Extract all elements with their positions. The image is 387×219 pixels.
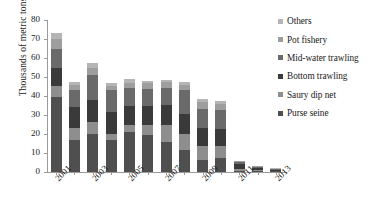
legend-item[interactable]: Bottom trawling (278, 67, 386, 85)
bar-segment (161, 105, 172, 126)
bar-segment (69, 107, 80, 128)
legend-item[interactable]: Mid-water trawling (278, 49, 386, 67)
bar-segment (197, 109, 208, 128)
bar-stack[interactable] (124, 79, 135, 172)
y-axis-tick-label: 0 (36, 166, 41, 176)
legend-item-label: Purse seine (287, 108, 329, 118)
y-axis-tick-label: 30 (31, 109, 40, 119)
bar-segment (179, 134, 190, 150)
bar-group (161, 20, 172, 172)
bar-segment (106, 134, 117, 141)
bar-segment (142, 106, 153, 125)
x-axis-tick-mark (221, 172, 222, 175)
bar-segment (197, 128, 208, 145)
y-axis-tick-label: 40 (31, 90, 40, 100)
y-axis-tick-label: 70 (31, 33, 40, 43)
bar-segment (51, 97, 62, 172)
bar-stack[interactable] (142, 81, 153, 172)
legend-swatch-icon (278, 19, 283, 24)
y-axis-title: Thousands of metric tons (18, 0, 28, 122)
y-axis-tick-label: 60 (31, 52, 40, 62)
bar-segment (179, 114, 190, 134)
y-axis-tick-label: 50 (31, 71, 40, 81)
bar-group (179, 20, 190, 172)
legend-item-label: Bottom trawling (287, 71, 347, 81)
x-axis-tick-mark (258, 172, 259, 175)
bar-segment (87, 100, 98, 122)
bar-segment (87, 75, 98, 101)
x-axis-tick-mark (74, 172, 75, 175)
bar-stack[interactable] (161, 80, 172, 172)
bar-group (215, 20, 226, 172)
legend-item[interactable]: Pot fishery (278, 30, 386, 48)
legend-item-label: Saury dip net (287, 90, 336, 100)
bar-stack[interactable] (51, 33, 62, 172)
bar-group (106, 20, 117, 172)
y-axis-tick-label: 80 (31, 14, 40, 24)
bar-segment (51, 49, 62, 68)
bar-segment (51, 86, 62, 97)
bar-segment (124, 88, 135, 105)
legend-item[interactable]: Others (278, 12, 386, 30)
legend-swatch-icon (278, 92, 283, 97)
legend-item-label: Pot fishery (287, 35, 327, 45)
bar-stack[interactable] (87, 63, 98, 172)
bar-segment (215, 129, 226, 146)
bar-stack[interactable] (197, 99, 208, 172)
legend-swatch-icon (278, 37, 283, 42)
bar-stack[interactable] (179, 82, 190, 172)
y-axis-tick-mark (44, 172, 47, 173)
bar-segment (51, 39, 62, 49)
bar-segment (106, 112, 117, 133)
bar-segment (69, 90, 80, 106)
bar-group (197, 20, 208, 172)
x-axis-tick-mark (148, 172, 149, 175)
bar-segment (215, 146, 226, 158)
bar-stack[interactable] (106, 83, 117, 172)
legend-item-label: Others (287, 16, 312, 26)
bar-segment (161, 125, 172, 142)
legend-swatch-icon (278, 74, 283, 79)
bar-group (124, 20, 135, 172)
y-axis-tick-label: 10 (31, 147, 40, 157)
bar-group (142, 20, 153, 172)
bar-segment (197, 146, 208, 160)
bar-segment (142, 89, 153, 106)
legend-item[interactable]: Saury dip net (278, 86, 386, 104)
bar-group (51, 20, 62, 172)
bar-group (87, 20, 98, 172)
bar-segment (161, 88, 172, 105)
bar-stack[interactable] (215, 101, 226, 172)
legend-swatch-icon (278, 111, 283, 116)
bar-segment (106, 90, 117, 112)
legend-item-label: Mid-water trawling (287, 53, 359, 63)
bar-segment (87, 122, 98, 134)
bar-stack[interactable] (69, 82, 80, 172)
x-axis-tick-mark (111, 172, 112, 175)
chart-legend: OthersPot fisheryMid-water trawlingBotto… (278, 12, 386, 122)
bar-group (234, 20, 245, 172)
plot-area (47, 20, 285, 172)
x-axis-tick-mark (184, 172, 185, 175)
bar-segment (69, 128, 80, 140)
bar-segment (142, 125, 153, 135)
stacked-bar-chart: Thousands of metric tons 010203040506070… (0, 0, 387, 219)
legend-swatch-icon (278, 55, 283, 60)
bar-segment (51, 68, 62, 86)
y-axis-tick-label: 20 (31, 128, 40, 138)
bar-segment (124, 106, 135, 125)
bar-segment (87, 134, 98, 172)
bar-segment (87, 68, 98, 75)
bar-group (252, 20, 263, 172)
bar-segment (124, 125, 135, 132)
bar-segment (142, 135, 153, 172)
bar-segment (215, 110, 226, 129)
bar-segment (124, 132, 135, 172)
bar-group (69, 20, 80, 172)
legend-item[interactable]: Purse seine (278, 104, 386, 122)
bar-segment (179, 90, 190, 114)
bar-segment (197, 102, 208, 109)
